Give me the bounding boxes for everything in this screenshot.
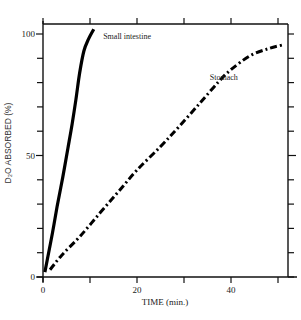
x-tick-label: 40 bbox=[227, 285, 237, 295]
chart: 02040050100 Small intestineStomach TIME … bbox=[0, 0, 301, 320]
x-tick-label: 0 bbox=[41, 285, 46, 295]
x-tick-label: 20 bbox=[133, 285, 143, 295]
series-line-stomach bbox=[50, 45, 283, 270]
y-tick-label: 50 bbox=[26, 151, 36, 161]
annotation-small-intestine: Small intestine bbox=[103, 32, 151, 41]
series-line-small-intestine bbox=[45, 29, 94, 272]
plot-frame bbox=[37, 21, 297, 282]
x-axis-label: TIME (min.) bbox=[142, 297, 189, 307]
annotation-stomach: Stomach bbox=[210, 73, 238, 82]
y-axis-label: D₂O ABSORBED (%) bbox=[3, 102, 13, 183]
series-group bbox=[45, 29, 283, 272]
y-tick-label: 0 bbox=[31, 272, 36, 282]
y-tick-label: 100 bbox=[22, 29, 36, 39]
labels-group: Small intestineStomach bbox=[103, 32, 238, 82]
